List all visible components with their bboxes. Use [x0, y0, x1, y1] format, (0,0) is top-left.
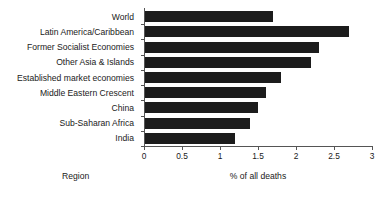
y-axis-tick — [141, 55, 144, 56]
category-label: World — [112, 12, 134, 22]
bar — [144, 118, 250, 129]
y-axis-tick — [141, 24, 144, 25]
x-axis-tick — [182, 146, 183, 150]
bar-row — [144, 133, 372, 144]
bar-row — [144, 57, 372, 68]
x-axis-tick — [296, 146, 297, 150]
plot-area — [144, 9, 372, 146]
x-axis-tick-label: 0 — [142, 151, 147, 161]
category-label: China — [112, 103, 134, 113]
x-axis-tick-label: 1.5 — [252, 151, 264, 161]
bar-row — [144, 102, 372, 113]
chart-figure: WorldLatin America/CaribbeanFormer Socia… — [0, 0, 392, 201]
y-axis-tick — [141, 85, 144, 86]
category-label: Sub-Saharan Africa — [59, 118, 134, 128]
bar — [144, 11, 273, 22]
category-label: Latin America/Caribbean — [40, 27, 134, 37]
y-axis-tick — [141, 39, 144, 40]
bar-row — [144, 26, 372, 37]
bar — [144, 42, 319, 53]
category-label: Middle Eastern Crescent — [40, 88, 134, 98]
bar-row — [144, 11, 372, 22]
category-axis-labels: WorldLatin America/CaribbeanFormer Socia… — [0, 9, 140, 146]
x-axis-title: % of all deaths — [230, 171, 286, 181]
y-axis-tick — [141, 100, 144, 101]
y-axis-tick — [141, 131, 144, 132]
x-axis-tick-label: 2 — [294, 151, 299, 161]
bar-row — [144, 42, 372, 53]
y-axis-tick — [141, 116, 144, 117]
bar — [144, 87, 266, 98]
x-axis-tick-label: 3 — [370, 151, 375, 161]
bar-row — [144, 87, 372, 98]
category-label: Other Asia & Islands — [56, 57, 134, 67]
x-axis-tick — [334, 146, 335, 150]
x-axis-tick — [258, 146, 259, 150]
x-axis-tick — [372, 146, 373, 150]
x-axis-tick-label: 2.5 — [328, 151, 340, 161]
x-axis-tick-label: 1 — [218, 151, 223, 161]
x-axis-tick — [220, 146, 221, 150]
category-label: India — [115, 133, 134, 143]
bar — [144, 72, 281, 83]
x-axis-tick — [144, 146, 145, 150]
bar — [144, 133, 235, 144]
bar-row — [144, 72, 372, 83]
bar — [144, 102, 258, 113]
y-axis-title: Region — [62, 171, 89, 181]
y-axis-line — [144, 8, 145, 146]
category-label: Former Socialist Economies — [27, 42, 134, 52]
bar-row — [144, 118, 372, 129]
bar — [144, 57, 311, 68]
y-axis-tick — [141, 146, 144, 147]
category-label: Established market economies — [17, 73, 134, 83]
y-axis-tick — [141, 70, 144, 71]
bar — [144, 26, 349, 37]
x-axis-tick-label: 0.5 — [176, 151, 188, 161]
